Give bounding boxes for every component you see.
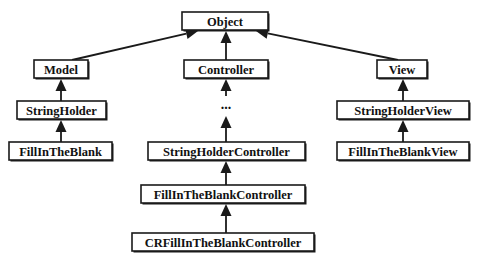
node-label: Controller xyxy=(198,63,254,77)
inheritance-edge-stringholder-to-model xyxy=(56,79,67,101)
edge-line xyxy=(72,34,186,60)
node-label: Model xyxy=(44,63,79,77)
arrowhead-icon xyxy=(56,79,67,91)
node-label: FillInTheBlankView xyxy=(348,145,457,159)
inheritance-edge-model-to-object xyxy=(72,28,198,60)
inheritance-edge-view-to-object xyxy=(256,28,398,60)
inheritance-edge-fillintheblank-to-stringholder xyxy=(56,120,67,142)
inheritance-edge-controller-to-object xyxy=(221,31,232,60)
class-node-fillintheblankcontroller: FillInTheBlankController xyxy=(141,185,307,205)
nodes: ObjectModelControllerViewStringHolderFil… xyxy=(9,12,471,253)
edge-line xyxy=(268,33,398,60)
class-node-stringholder: StringHolder xyxy=(17,101,108,121)
node-label: StringHolderController xyxy=(163,145,290,159)
class-node-crfillintheblankcontroller: CRFillInTheBlankController xyxy=(132,233,316,253)
class-node-model: Model xyxy=(34,60,90,80)
class-hierarchy-diagram: ObjectModelControllerViewStringHolderFil… xyxy=(0,0,481,261)
inheritance-edge-fillintheblankcontroller-to-stringholdercontroller xyxy=(221,161,232,185)
inheritance-edge-crfillintheblankcontroller-to-fillintheblankcontroller xyxy=(221,204,232,233)
node-label: FillInTheBlank xyxy=(19,145,102,159)
node-label: View xyxy=(389,63,416,77)
inheritance-edge-stringholdercontroller-to-ellipsis xyxy=(221,116,232,142)
node-label: StringHolder xyxy=(26,104,97,118)
class-node-stringholdercontroller: StringHolderController xyxy=(148,142,307,162)
class-node-fillintheblank: FillInTheBlank xyxy=(9,142,114,162)
node-label: ... xyxy=(221,97,232,112)
arrowhead-icon xyxy=(56,120,67,132)
arrowhead-icon xyxy=(398,79,409,91)
node-label: StringHolderView xyxy=(354,104,451,118)
arrowhead-icon xyxy=(221,31,232,43)
node-label: CRFillInTheBlankController xyxy=(145,236,302,250)
class-node-view: View xyxy=(377,60,429,80)
arrowhead-icon xyxy=(221,79,232,91)
arrowhead-icon xyxy=(221,161,232,173)
inheritance-edge-stringholderview-to-view xyxy=(398,79,409,101)
arrowhead-icon xyxy=(221,204,232,216)
node-label: FillInTheBlankController xyxy=(154,188,293,202)
ellipsis-marker: ... xyxy=(221,97,232,112)
class-node-object: Object xyxy=(182,12,270,32)
class-node-stringholderview: StringHolderView xyxy=(337,101,471,121)
arrowhead-icon xyxy=(221,116,232,128)
class-node-controller: Controller xyxy=(184,60,270,80)
node-label: Object xyxy=(207,15,244,29)
class-node-fillintheblankview: FillInTheBlankView xyxy=(337,142,471,162)
inheritance-edge-fillintheblankview-to-stringholderview xyxy=(398,120,409,142)
inheritance-edge-ellipsis-to-controller xyxy=(221,79,232,96)
arrowhead-icon xyxy=(398,120,409,132)
